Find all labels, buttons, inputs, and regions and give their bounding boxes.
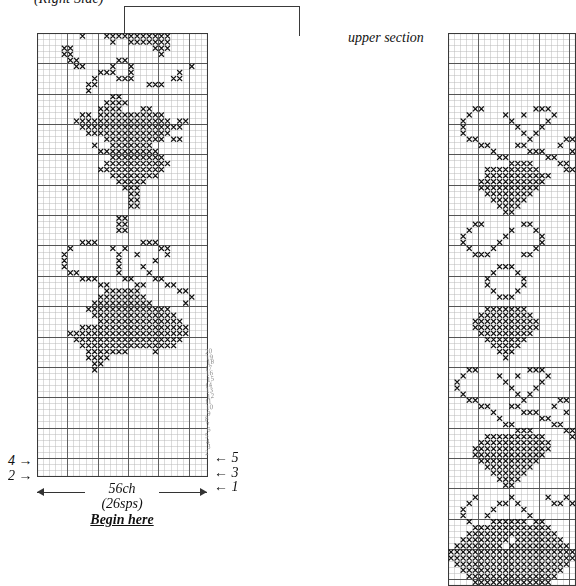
right-row-marker: ← 1 [214, 479, 239, 495]
left-pattern-chart[interactable] [37, 33, 208, 477]
right-side-title: (Right Side) [34, 0, 104, 7]
left-chart-canvas[interactable] [37, 33, 208, 477]
arrow-right-icon: → [19, 453, 33, 468]
arrow-left-icon: ← [214, 465, 228, 480]
left-row-marker: 4 → [8, 453, 33, 469]
pattern-repeat-bracket [124, 6, 300, 36]
chart-spaces-label: (26sps) [37, 496, 207, 512]
begin-here-label: Begin here [37, 512, 207, 528]
left-row-marker: 2 → [8, 468, 33, 484]
row-marker-number: 5 [232, 450, 239, 465]
right-row-marker: ← 5 [214, 450, 239, 466]
right-pattern-chart[interactable] [448, 33, 576, 586]
arrow-left-icon: ← [214, 450, 228, 465]
upper-section-label: upper section [348, 30, 424, 46]
row-marker-number: 3 [232, 465, 239, 480]
row-number-strip: 201918171615141312111098765432 [205, 348, 227, 453]
arrow-left-icon: ← [214, 479, 228, 494]
right-chart-canvas[interactable] [448, 33, 576, 586]
row-marker-number: 1 [232, 479, 239, 494]
row-marker-number: 4 [8, 453, 15, 468]
chart-width-label: 56ch [37, 481, 207, 497]
row-marker-number: 2 [8, 468, 15, 483]
arrow-right-icon: → [19, 468, 33, 483]
